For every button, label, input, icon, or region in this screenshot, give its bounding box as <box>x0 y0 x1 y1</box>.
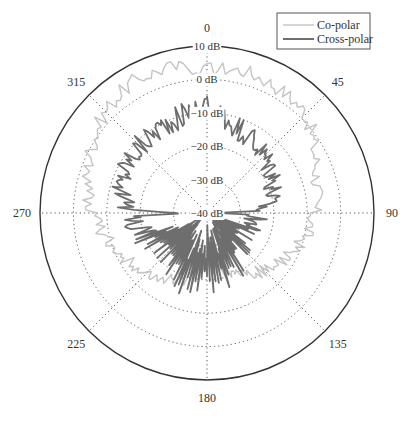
angle-label-270: 270 <box>13 206 31 220</box>
trace-cross-polar <box>113 96 282 293</box>
legend-label-cross-polar: Cross-polar <box>317 32 373 46</box>
ring-label: 10 dB <box>194 40 221 52</box>
angle-label-45: 45 <box>332 75 344 89</box>
ring-label: −10 dB <box>191 107 224 119</box>
ring-label: −20 dB <box>191 140 224 152</box>
angle-label-135: 135 <box>329 337 347 351</box>
polar-radiation-pattern-chart: 10 dB0 dB−10 dB−20 dB−30 dB−40 dB0459013… <box>0 0 414 422</box>
legend: Co-polar Cross-polar <box>277 13 373 49</box>
angle-label-180: 180 <box>198 391 216 405</box>
ring-label: −40 dB <box>191 207 224 219</box>
ring-label: −30 dB <box>191 174 224 186</box>
ring-label: 0 dB <box>196 73 217 85</box>
legend-label-co-polar: Co-polar <box>317 18 360 32</box>
angle-label-90: 90 <box>386 206 398 220</box>
angle-label-315: 315 <box>67 75 85 89</box>
angle-label-0: 0 <box>204 21 210 35</box>
angle-label-225: 225 <box>67 337 85 351</box>
